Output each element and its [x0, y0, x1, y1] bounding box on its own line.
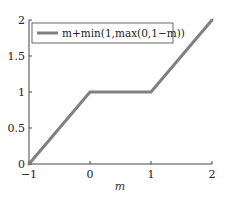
y-tick-label: 0.5 — [8, 122, 26, 135]
x-tick-label: 0 — [87, 168, 94, 181]
x-axis-label: m — [115, 180, 125, 193]
y-tick-label: 1.5 — [8, 50, 26, 63]
x-tick-label: 2 — [209, 168, 216, 181]
y-tick-label: 1 — [18, 86, 25, 99]
chart: −1 0 1 2 0 0.5 1 1.5 2 m m+min(1,max(0,1… — [0, 0, 229, 197]
y-tick-label: 0 — [18, 158, 25, 171]
x-tick-label: 1 — [148, 168, 155, 181]
legend-label: m+min(1,max(0,1−m)) — [62, 27, 185, 39]
legend: m+min(1,max(0,1−m)) — [32, 23, 185, 43]
y-tick-label: 2 — [18, 14, 25, 27]
